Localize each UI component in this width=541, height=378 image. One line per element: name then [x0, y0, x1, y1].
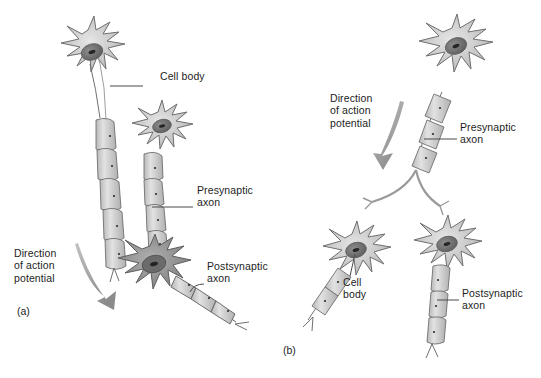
panel-label-a: (a): [17, 305, 30, 317]
label-direction-of-action-potential-a: Direction of action potential: [14, 247, 56, 284]
label-postsynaptic-axon-a: Postsynaptic axon: [207, 260, 268, 285]
neuron-synapse-figure: Cell body Presynaptic axon Postsynaptic …: [0, 0, 541, 378]
direction-arrow-b: [373, 101, 404, 170]
label-postsynaptic-axon-b: Postsynaptic axon: [462, 287, 523, 312]
label-cell-body-b: Cell body: [343, 276, 366, 301]
label-presynaptic-axon-a: Presynaptic axon: [197, 184, 253, 209]
caption-strip: [0, 364, 541, 378]
label-cell-body-a: Cell body: [160, 70, 205, 82]
presynaptic-neuron-2: [132, 100, 193, 267]
label-direction-of-action-potential-b: Direction of action potential: [330, 92, 372, 129]
postsynaptic-axon-b-right: [426, 265, 450, 358]
panel-label-b: (b): [283, 344, 296, 356]
neuron-illustration: [0, 0, 541, 378]
label-presynaptic-axon-b: Presynaptic axon: [460, 121, 516, 146]
presynaptic-neuron-b: [363, 14, 493, 215]
presynaptic-neuron-1: [61, 16, 126, 282]
